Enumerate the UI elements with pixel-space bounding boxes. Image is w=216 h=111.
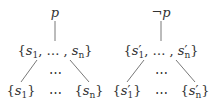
right-middle-dots: ⋯: [155, 66, 168, 79]
right-leaf-1: {s′1}: [113, 84, 142, 100]
left-leaf-1: {s1}: [7, 84, 36, 100]
right-leaf-n: {s′n}: [181, 84, 210, 100]
left-middle-node: {s1, … , sn}: [17, 44, 92, 60]
left-leaf-dots: ⋯: [49, 86, 62, 99]
left-root-node: p: [51, 6, 59, 19]
edge-left-leaf1: [21, 60, 37, 82]
left-middle-dots: ⋯: [49, 66, 62, 79]
right-root-node: ¬p: [151, 6, 170, 19]
left-leaf-n: {sn}: [74, 84, 103, 100]
edge-right-leaf1: [127, 60, 144, 82]
edge-left-leafn: [70, 60, 89, 82]
right-middle-node: {s′1, … , s′n}: [123, 44, 198, 60]
right-leaf-dots: ⋯: [155, 86, 168, 99]
edge-right-leafn: [176, 60, 195, 82]
